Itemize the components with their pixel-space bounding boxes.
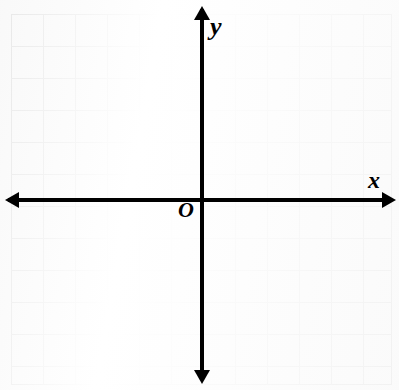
x-axis-label: x [368, 168, 380, 192]
coordinate-plane-figure: y x O [0, 0, 399, 390]
y-axis-label: y [210, 14, 222, 40]
y-axis-up-arrow-icon [194, 6, 210, 20]
grid-line-horizontal [11, 384, 392, 385]
y-axis-line [200, 9, 204, 379]
origin-label: O [178, 199, 194, 221]
y-axis-down-arrow-icon [194, 370, 210, 384]
x-axis-left-arrow-icon [5, 192, 19, 208]
x-axis-right-arrow-icon [382, 192, 396, 208]
